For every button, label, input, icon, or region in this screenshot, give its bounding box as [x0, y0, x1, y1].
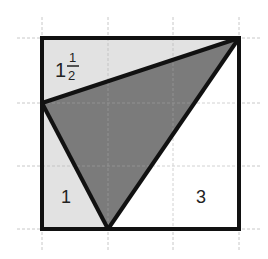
area-diagram: 1 1 2 1 3 — [0, 0, 268, 259]
label-top-left-whole: 1 — [55, 59, 66, 81]
diagram-canvas: 1 1 2 1 3 — [0, 0, 268, 259]
label-top-left-numerator: 1 — [69, 50, 76, 65]
label-bottom-left: 1 — [61, 187, 71, 207]
label-bottom-right: 3 — [196, 187, 206, 207]
label-top-left-denominator: 2 — [68, 68, 75, 83]
